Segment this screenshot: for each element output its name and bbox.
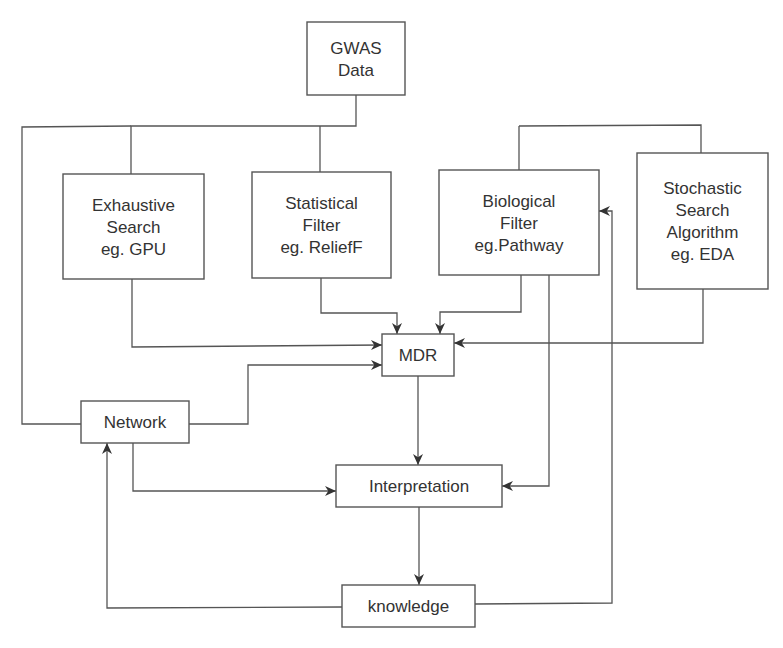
mdr-label-line: MDR bbox=[399, 346, 438, 365]
biological-label-line: Biological bbox=[483, 192, 556, 211]
gwas-label-line: GWAS bbox=[330, 39, 381, 58]
nodes: GWASDataExhaustiveSearcheg. GPUStatistic… bbox=[63, 22, 768, 627]
stochastic-box bbox=[637, 153, 768, 289]
edge-interpretation-to-knowledge bbox=[414, 507, 424, 585]
connector-line bbox=[502, 275, 549, 486]
edge-network-to-interpretation bbox=[133, 443, 336, 496]
edge-gwas-to-stochastic bbox=[519, 125, 701, 153]
exhaustive-label-line: eg. GPU bbox=[101, 240, 166, 259]
stochastic-label-line: Algorithm bbox=[667, 223, 739, 242]
stochastic-label-line: Search bbox=[676, 201, 730, 220]
connector-line bbox=[440, 275, 521, 334]
edge-statistical-to-mdr bbox=[321, 278, 402, 334]
connector-line bbox=[519, 125, 701, 153]
edge-exhaustive-to-mdr bbox=[132, 279, 382, 350]
node-interpretation: Interpretation bbox=[336, 465, 502, 507]
knowledge-label-line: knowledge bbox=[368, 597, 449, 616]
connector-line bbox=[189, 365, 382, 424]
node-network: Network bbox=[81, 401, 189, 443]
edge-network-to-mdr bbox=[189, 360, 382, 424]
edge-stochastic-to-mdr bbox=[454, 289, 703, 348]
node-exhaustive: ExhaustiveSearcheg. GPU bbox=[63, 174, 204, 279]
connector-line bbox=[133, 443, 336, 491]
edge-biological-to-interpretation bbox=[502, 275, 549, 491]
gwas-label-line: Data bbox=[338, 61, 374, 80]
statistical-label-line: Filter bbox=[303, 216, 341, 235]
node-statistical: StatisticalFiltereg. ReliefF bbox=[252, 172, 391, 278]
interpretation-label-line: Interpretation bbox=[369, 477, 469, 496]
exhaustive-label-line: Exhaustive bbox=[92, 196, 175, 215]
edge-gwas-to-exhaustive bbox=[131, 95, 356, 174]
connector-line bbox=[131, 95, 356, 174]
node-knowledge: knowledge bbox=[342, 585, 475, 627]
edge-mdr-to-interpretation bbox=[413, 376, 423, 465]
stochastic-label-line: Stochastic bbox=[663, 179, 742, 198]
connector-line bbox=[321, 278, 397, 334]
node-biological: BiologicalFiltereg.Pathway bbox=[439, 170, 599, 275]
node-gwas: GWASData bbox=[307, 22, 405, 95]
statistical-label-line: Statistical bbox=[285, 194, 358, 213]
connector-line bbox=[454, 289, 703, 343]
node-mdr: MDR bbox=[382, 334, 454, 376]
node-stochastic: StochasticSearchAlgorithmeg. EDA bbox=[637, 153, 768, 289]
biological-label-line: eg.Pathway bbox=[475, 236, 564, 255]
stochastic-label-line: eg. EDA bbox=[671, 245, 735, 264]
diagram-canvas: GWASDataExhaustiveSearcheg. GPUStatistic… bbox=[0, 0, 783, 648]
network-label-line: Network bbox=[104, 413, 167, 432]
gwas-box bbox=[307, 22, 405, 95]
statistical-label-line: eg. ReliefF bbox=[280, 238, 362, 257]
biological-label-line: Filter bbox=[500, 214, 538, 233]
edge-biological-to-mdr bbox=[435, 275, 521, 334]
exhaustive-label-line: Search bbox=[107, 218, 161, 237]
edge-knowledge-to-network bbox=[102, 443, 342, 608]
connector-line bbox=[107, 443, 342, 608]
